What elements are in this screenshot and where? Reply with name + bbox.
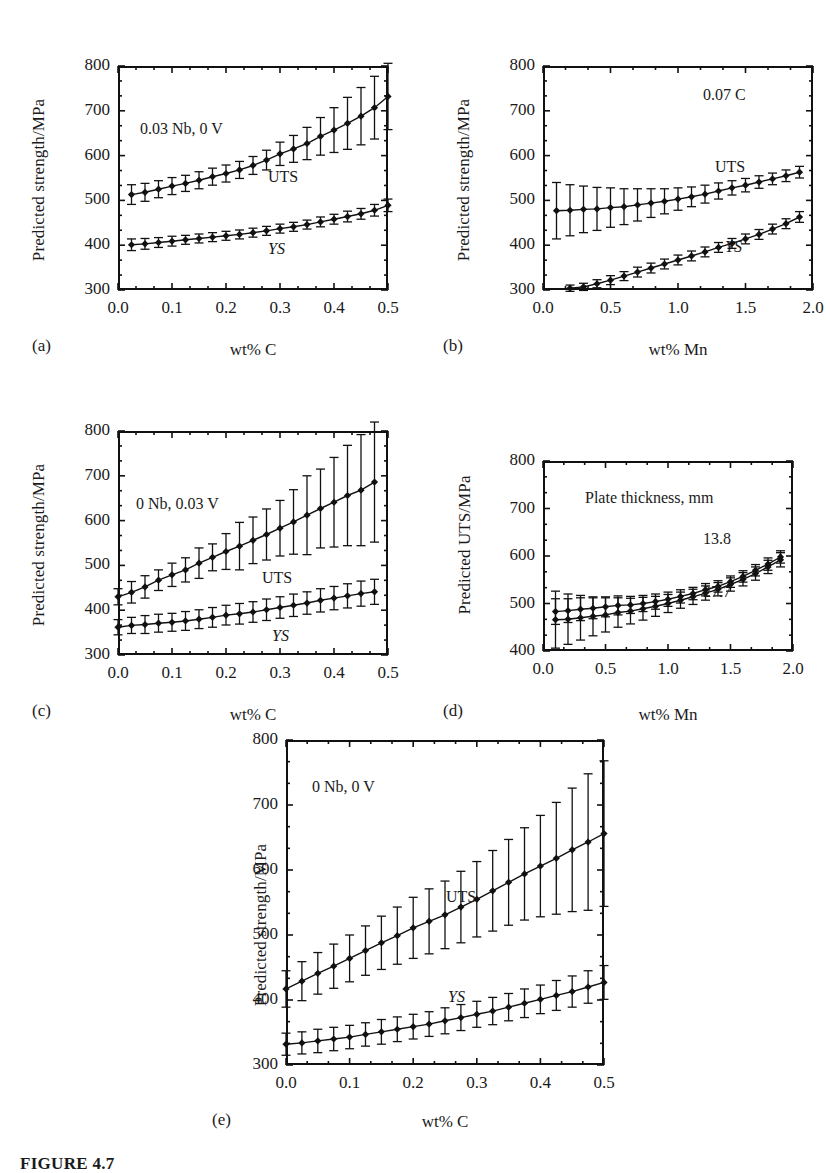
panel-c-ytick: 700 [60, 465, 110, 485]
panel-d-series-label-138: 13.8 [703, 530, 731, 548]
panel-e-series-label-ys: YS [448, 988, 465, 1006]
panel-e-xtick: 0.0 [261, 1073, 311, 1093]
panel-a-ytick: 600 [60, 145, 110, 165]
panel-b-ytick: 500 [485, 189, 535, 209]
panel-b-xtick: 1.0 [653, 298, 703, 318]
panel-d-xtick: 0.5 [581, 659, 631, 679]
panel-c-xtick: 0.0 [93, 663, 143, 683]
panel-b-ytick: 400 [485, 234, 535, 254]
panel-c-chart-svg [118, 431, 388, 655]
panel-d-xtick: 0.0 [518, 659, 568, 679]
panel-d-ytick: 600 [485, 545, 535, 565]
panel-e-ytick: 300 [228, 1054, 278, 1074]
panel-e-xtick: 0.4 [515, 1073, 565, 1093]
panel-c-y-axis-label: Predicted strength/MPa [29, 430, 49, 660]
panel-b-chart-svg [543, 66, 813, 290]
panel-e-ytick: 600 [228, 859, 278, 879]
panel-e-xtick: 0.5 [579, 1073, 629, 1093]
panel-d-ytick: 700 [485, 498, 535, 518]
panel-d-ytick: 500 [485, 593, 535, 613]
panel-b-series-label-uts: UTS [715, 158, 745, 176]
panel-b-xtick: 0.0 [518, 298, 568, 318]
panel-b-y-axis-label: Predicted strength/MPa [454, 65, 474, 295]
panel-c: Predicted strength/MPa wt% C (c) 0 Nb, 0… [0, 365, 415, 730]
panel-c-series-label-ys: YS [272, 627, 289, 645]
panel-b-annotation: 0.07 C [703, 86, 746, 104]
panel-b: Predicted strength/MPa wt% Mn (b) 0.07 C… [415, 0, 830, 365]
panel-d-x-axis-label: wt% Mn [593, 705, 743, 725]
panel-e-xtick: 0.1 [325, 1073, 375, 1093]
panel-e-annotation: 0 Nb, 0 V [312, 778, 375, 796]
panel-a-label: (a) [32, 336, 51, 356]
panel-d-ytick: 800 [485, 450, 535, 470]
panel-e-x-axis-label: wt% C [370, 1112, 520, 1132]
panel-b-ytick: 700 [485, 100, 535, 120]
panel-d-xtick: 1.5 [706, 659, 756, 679]
panel-d-xtick: 2.0 [768, 659, 818, 679]
panel-d: Predicted UTS/MPa wt% Mn (d) Plate thick… [415, 365, 830, 730]
panel-c-x-axis-label: wt% C [178, 705, 328, 725]
panel-b-xtick: 1.5 [721, 298, 771, 318]
panel-e-ytick: 700 [228, 794, 278, 814]
panel-a-ytick: 400 [60, 234, 110, 254]
panel-a-ytick: 800 [60, 55, 110, 75]
panel-d-y-axis-label: Predicted UTS/MPa [455, 440, 475, 650]
panel-a-xtick: 0.0 [93, 298, 143, 318]
panel-e-series-label-uts: UTS [446, 888, 476, 906]
panel-d-ytick: 400 [485, 640, 535, 660]
panel-e-xtick: 0.3 [452, 1073, 502, 1093]
panel-d-annotation: Plate thickness, mm [585, 489, 713, 507]
panel-a-x-axis-label: wt% C [178, 340, 328, 360]
panel-c-xtick: 0.5 [363, 663, 413, 683]
panel-d-series-label-277: 27.7 [703, 583, 731, 601]
panel-a: Predicted strength/MPa wt% C (a) 0.03 Nb… [0, 0, 415, 365]
panel-a-xtick: 0.3 [255, 298, 305, 318]
panel-c-ytick: 300 [60, 644, 110, 664]
panel-a-series-label-ys: YS [268, 240, 285, 258]
panel-a-series-label-uts: UTS [268, 168, 298, 186]
panel-b-ytick: 300 [485, 279, 535, 299]
panel-a-xtick: 0.5 [363, 298, 413, 318]
panel-c-ytick: 500 [60, 554, 110, 574]
panel-d-xtick: 1.0 [643, 659, 693, 679]
panel-e-ytick: 500 [228, 924, 278, 944]
panel-c-ytick: 800 [60, 420, 110, 440]
panel-e-ytick: 400 [228, 989, 278, 1009]
panel-b-x-axis-label: wt% Mn [603, 340, 753, 360]
panel-a-xtick: 0.4 [309, 298, 359, 318]
panel-c-ytick: 400 [60, 599, 110, 619]
panel-c-ytick: 600 [60, 510, 110, 530]
panel-a-annotation: 0.03 Nb, 0 V [140, 120, 223, 138]
panel-b-ytick: 800 [485, 55, 535, 75]
panel-a-xtick: 0.1 [147, 298, 197, 318]
panel-a-ytick: 700 [60, 100, 110, 120]
panel-a-y-axis-label: Predicted strength/MPa [29, 65, 49, 295]
panel-e-xtick: 0.2 [388, 1073, 438, 1093]
panel-a-xtick: 0.2 [201, 298, 251, 318]
panel-b-label: (b) [443, 336, 463, 356]
panel-c-xtick: 0.1 [147, 663, 197, 683]
panel-a-chart-svg [118, 66, 388, 290]
panel-b-xtick: 0.5 [586, 298, 636, 318]
panel-a-ytick: 500 [60, 189, 110, 209]
panel-c-annotation: 0 Nb, 0.03 V [136, 495, 219, 513]
panel-b-xtick: 2.0 [788, 298, 830, 318]
panel-b-series-label-ys: YS [725, 238, 742, 256]
panel-b-ytick: 600 [485, 145, 535, 165]
panel-d-label: (d) [443, 701, 463, 721]
panel-c-xtick: 0.2 [201, 663, 251, 683]
panel-e-ytick: 800 [228, 729, 278, 749]
panel-e-label: (e) [212, 1110, 231, 1130]
panel-a-ytick: 300 [60, 279, 110, 299]
panel-c-xtick: 0.3 [255, 663, 305, 683]
figure-caption: FIGURE 4.7 [20, 1154, 115, 1173]
panel-c-xtick: 0.4 [309, 663, 359, 683]
panel-c-series-label-uts: UTS [262, 569, 292, 587]
panel-c-label: (c) [32, 701, 51, 721]
panel-e: Predicted strength/MPa wt% C (e) 0 Nb, 0… [0, 730, 830, 1130]
